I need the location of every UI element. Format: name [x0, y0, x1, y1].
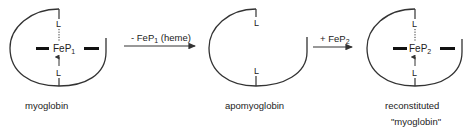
heme-plane-right	[440, 47, 455, 50]
reconstituted-label: reconstituted	[385, 100, 439, 111]
myoglobin-structure: L FeP1 L	[10, 9, 106, 86]
top-ligand-label: L	[412, 19, 417, 29]
top-ligand-label: L	[56, 19, 61, 29]
heme-plane-left	[36, 47, 49, 50]
apomyoglobin-structure: L L	[209, 9, 307, 86]
reconstituted-structure: L FeP2 L	[367, 9, 462, 86]
cofactor-label: FeP2	[409, 43, 431, 55]
addition-arrow-label: + FeP2	[320, 33, 350, 45]
reaction-diagram: L FeP1 L myoglobin - FeP1 (heme) L L apo…	[0, 0, 474, 133]
myoglobin-label: myoglobin	[25, 100, 68, 111]
heme-plane-left	[393, 47, 407, 50]
removal-arrow-label: - FeP1 (heme)	[131, 32, 191, 44]
addition-arrow: + FeP2	[313, 33, 352, 47]
reconstituted-label-line2: "myoglobin"	[391, 116, 441, 127]
heme-plane-right	[84, 47, 99, 50]
cofactor-label: FeP1	[53, 43, 75, 55]
apomyoglobin-label: apomyoglobin	[225, 100, 284, 111]
removal-arrow: - FeP1 (heme)	[124, 32, 195, 46]
top-ligand-label: L	[254, 18, 259, 28]
bottom-ligand-label: L	[412, 68, 417, 78]
bottom-ligand-label: L	[254, 66, 259, 76]
bottom-ligand-label: L	[56, 68, 61, 78]
